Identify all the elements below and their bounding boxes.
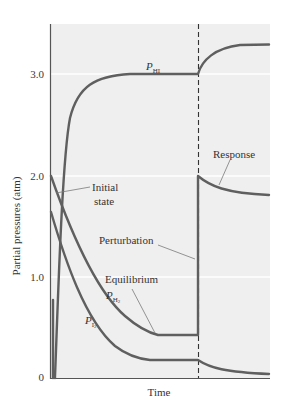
label-perturbation: Perturbation [99,234,154,246]
plot-area [50,24,270,378]
y-tick-2: 2.0 [30,170,44,182]
y-tick-3: 3.0 [30,68,44,80]
y-tick-1: 1.0 [30,271,44,283]
label-equilibrium: Equilibrium [105,273,159,285]
y-tick-0: 0 [39,371,45,383]
x-axis-title: Time [148,386,171,398]
label-response: Response [213,148,255,160]
label-initial-line1: Initial [92,181,118,193]
label-initial-line2: state [94,195,114,207]
chart: 0 1.0 2.0 3.0 Partial pressures (atm) Ti… [0,0,283,415]
y-axis-title: Partial pressures (atm) [10,176,23,275]
